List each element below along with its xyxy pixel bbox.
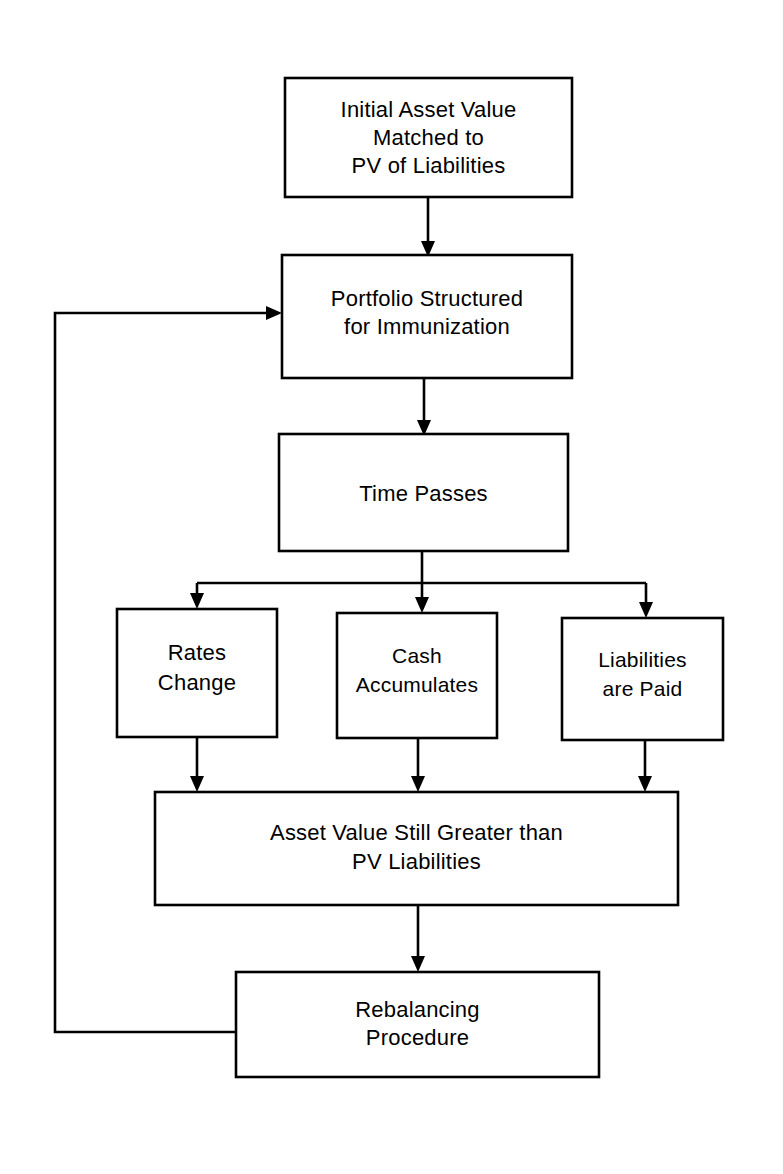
edge-asset-to-rebalancing	[411, 905, 425, 972]
node-liabilities-are-paid: Liabilities are Paid	[562, 618, 723, 740]
node-rebalancing-procedure-line-1: Rebalancing	[355, 997, 480, 1022]
node-cash-accumulates-line-1: Cash	[392, 644, 442, 667]
node-liabilities-are-paid-line-2: are Paid	[603, 677, 683, 700]
node-initial-asset-value: Initial Asset Value Matched to PV of Lia…	[285, 78, 572, 197]
edge-portfolio-to-time	[417, 378, 431, 436]
node-liabilities-are-paid-line-1: Liabilities	[598, 648, 687, 671]
node-initial-asset-value-line-1: Initial Asset Value	[341, 97, 517, 122]
node-cash-accumulates: Cash Accumulates	[337, 613, 497, 738]
node-cash-accumulates-line-2: Accumulates	[356, 673, 478, 696]
node-asset-value-still-greater-line-2: PV Liabilities	[352, 849, 481, 874]
node-initial-asset-value-line-3: PV of Liabilities	[352, 153, 506, 178]
node-asset-value-still-greater-line-1: Asset Value Still Greater than	[270, 820, 563, 845]
edge-rates-to-asset	[190, 737, 204, 792]
edge-liabilities-to-asset	[638, 740, 652, 792]
node-time-passes-line-1: Time Passes	[359, 481, 488, 506]
flowchart-canvas: Initial Asset Value Matched to PV of Lia…	[0, 0, 783, 1174]
edge-time-fanout-bus	[197, 551, 646, 583]
edge-time-to-cash	[415, 583, 429, 613]
node-portfolio-structured-line-1: Portfolio Structured	[331, 286, 523, 311]
edge-time-to-liabilities	[639, 583, 653, 618]
edge-time-to-rates	[190, 583, 204, 609]
node-initial-asset-value-line-2: Matched to	[373, 125, 484, 150]
edge-initial-to-portfolio	[421, 197, 435, 257]
node-rebalancing-procedure: Rebalancing Procedure	[236, 972, 599, 1077]
node-time-passes: Time Passes	[279, 434, 568, 551]
node-portfolio-structured: Portfolio Structured for Immunization	[282, 255, 572, 378]
node-portfolio-structured-line-2: for Immunization	[344, 314, 510, 339]
node-rates-change-line-2: Change	[158, 670, 236, 695]
edge-cash-to-asset	[411, 738, 425, 792]
node-asset-value-still-greater: Asset Value Still Greater than PV Liabil…	[155, 792, 678, 905]
node-rates-change: Rates Change	[117, 609, 277, 737]
node-rebalancing-procedure-line-2: Procedure	[366, 1025, 469, 1050]
node-rates-change-line-1: Rates	[168, 640, 226, 665]
flowchart-page: Initial Asset Value Matched to PV of Lia…	[0, 0, 783, 1174]
